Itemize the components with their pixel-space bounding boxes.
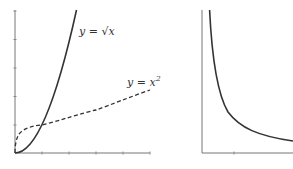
square-label: y = x2 [126,74,161,89]
hyperbola-curve [210,10,293,141]
sqrt-label: y = √x [78,25,115,38]
solid-curve [15,10,77,153]
dashed-curve [15,90,150,153]
right-panel [202,10,293,155]
chart-canvas: y = √x y = x2 [0,0,293,169]
